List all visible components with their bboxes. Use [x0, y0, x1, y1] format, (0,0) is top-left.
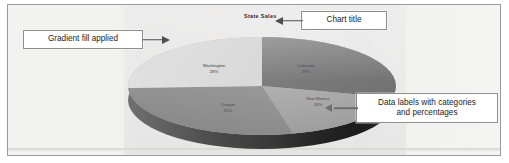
- annotation-gradient-fill: Gradient fill applied: [23, 30, 143, 49]
- data-label-washington: Washington 28%: [184, 63, 244, 75]
- data-label-oregon: Oregon 25%: [198, 102, 258, 114]
- data-label-washington-percent: 28%: [184, 69, 244, 75]
- annotation-data-labels: Data labels with categories and percenta…: [356, 93, 498, 123]
- data-label-colorado-category: Colorado: [297, 63, 314, 68]
- annotation-data-labels-line1: Data labels with categories: [378, 98, 476, 107]
- chart-frame: State Sales Washington 28% Colorado 29% …: [7, 4, 501, 156]
- data-label-colorado-percent: 29%: [276, 69, 336, 75]
- annotation-chart-title: Chart title: [301, 11, 387, 30]
- arrow-shaft: [143, 39, 164, 41]
- arrow-shaft: [334, 107, 358, 109]
- arrow-shaft: [282, 20, 303, 22]
- data-label-oregon-category: Oregon: [221, 102, 235, 107]
- arrow-head: [162, 36, 170, 44]
- arrow-head: [325, 104, 332, 112]
- figure-container: State Sales Washington 28% Colorado 29% …: [0, 0, 509, 163]
- annotation-data-labels-line2: and percentages: [396, 108, 457, 117]
- arrow-head: [275, 17, 283, 25]
- annotation-arrow-right-icon: [143, 31, 172, 48]
- data-label-colorado: Colorado 29%: [276, 63, 336, 75]
- annotation-arrow-left-icon: [275, 12, 303, 29]
- data-label-oregon-percent: 25%: [198, 108, 258, 114]
- chart-title: State Sales: [244, 13, 277, 19]
- data-label-washington-category: Washington: [203, 63, 226, 68]
- annotation-arrow-left-gray-icon: [325, 100, 358, 116]
